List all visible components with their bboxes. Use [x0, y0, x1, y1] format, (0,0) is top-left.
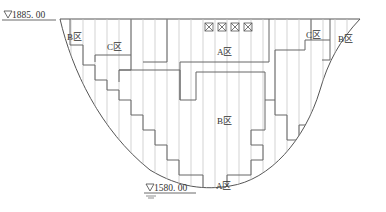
- zone-label-b-left: B区: [67, 32, 82, 42]
- dam-section-diagram: 1885. 00 1580. 00 B区 C区 A区 C区 B区 B区 A区: [0, 0, 386, 212]
- bottom-elevation-label: 1580. 00: [154, 183, 188, 193]
- zone-label-b-center: B区: [217, 116, 232, 126]
- zone-label-a-top: A区: [217, 47, 233, 57]
- legend-boxes: [205, 23, 252, 31]
- crest-elevation-label: 1885. 00: [12, 10, 46, 20]
- zone-label-c-right: C区: [306, 30, 321, 40]
- zone-label-b-right: B区: [338, 34, 353, 44]
- crest-elevation-marker: 1885. 00: [2, 10, 56, 20]
- zone-label-a-bottom: A区: [216, 181, 232, 191]
- elevation-triangle-icon: [4, 11, 12, 18]
- valley-profile: [60, 19, 360, 188]
- zone-label-c-left: C区: [107, 42, 122, 52]
- elevation-triangle-icon: [146, 184, 154, 191]
